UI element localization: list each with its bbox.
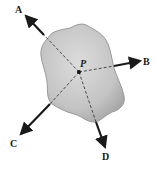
force-label-b: B <box>143 56 150 67</box>
force-label-c: C <box>10 138 17 149</box>
rigid-body <box>41 24 125 122</box>
force-arrow-a <box>26 16 44 35</box>
point-p <box>77 70 81 74</box>
force-arrow-b <box>114 61 140 66</box>
force-arrow-c <box>21 104 50 134</box>
force-diagram: P A B C D <box>0 0 155 171</box>
force-arrow-d <box>96 122 105 147</box>
force-label-d: D <box>102 151 109 162</box>
point-p-label: P <box>80 58 87 69</box>
force-label-a: A <box>15 4 23 15</box>
